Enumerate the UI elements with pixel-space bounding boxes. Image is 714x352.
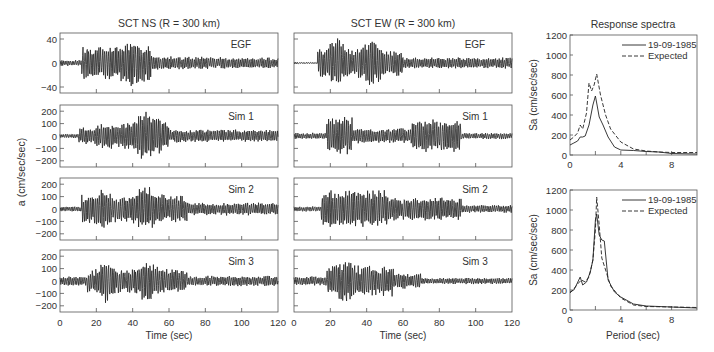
x-tick-label: 4 [618, 159, 623, 170]
waveform-trace [294, 117, 512, 154]
x-tick-label: 8 [669, 159, 674, 170]
panel-label: Sim 3 [228, 256, 254, 267]
x-tick-label: 4 [618, 314, 623, 325]
x-axis-label: Time (sec) [146, 330, 193, 341]
y-tick-label: 0 [562, 305, 567, 316]
y-tick-label: 1200 [546, 185, 567, 196]
y-tick-label: 200 [41, 106, 57, 117]
y-tick-label: 100 [41, 263, 57, 274]
x-tick-label: 100 [234, 317, 250, 328]
x-tick-label: 0 [567, 314, 572, 325]
y-tick-label: 200 [41, 179, 57, 190]
x-tick-label: 120 [270, 317, 286, 328]
legend-dashed-label: Expected [648, 50, 688, 61]
x-tick-label: 0 [567, 159, 572, 170]
y-tick-label: −200 [36, 155, 57, 166]
y-tick-label: −40 [41, 82, 57, 93]
y-tick-label: 800 [551, 70, 567, 81]
y-tick-label: −100 [36, 143, 57, 154]
panel-label: EGF [231, 39, 252, 50]
y-tick-label: 200 [551, 130, 567, 141]
x-tick-label: 60 [398, 317, 409, 328]
panel-label: Sim 2 [462, 184, 488, 195]
y-tick-label: 800 [551, 225, 567, 236]
y-tick-label: 0 [52, 276, 57, 287]
x-tick-label: 8 [669, 314, 674, 325]
ew-title: SCT EW (R = 300 km) [351, 17, 456, 29]
y-tick-label: 100 [41, 191, 57, 202]
y-tick-label: 0 [52, 204, 57, 215]
waveform-trace [60, 44, 278, 86]
spectrum-dashed [570, 74, 697, 153]
spectrum-solid [570, 214, 697, 308]
y-tick-label: −200 [36, 228, 57, 239]
legend-dashed-label: Expected [648, 205, 688, 216]
x-tick-label: 20 [91, 317, 102, 328]
y-tick-label: 600 [551, 90, 567, 101]
x-tick-label: 40 [127, 317, 138, 328]
x-tick-label: 60 [164, 317, 175, 328]
y-tick-label: 0 [52, 131, 57, 142]
x-tick-label: 0 [57, 317, 62, 328]
legend-solid-label: 19-09-1985 [648, 194, 697, 205]
y-tick-label: 1200 [546, 30, 567, 41]
y-axis-label: Sa (cm/sec/sec) [528, 59, 539, 131]
legend-solid-label: 19-09-1985 [648, 39, 697, 50]
panel-label: Sim 3 [462, 256, 488, 267]
y-tick-label: 400 [551, 265, 567, 276]
x-tick-label: 120 [504, 317, 520, 328]
x-tick-label: 100 [468, 317, 484, 328]
ns-title: SCT NS (R = 300 km) [118, 17, 220, 29]
panel-label: Sim 2 [228, 184, 254, 195]
y-tick-label: −100 [36, 288, 57, 299]
y-tick-label: 200 [551, 285, 567, 296]
waveform-trace [294, 190, 512, 227]
waveform-trace [294, 262, 512, 301]
panel-label: Sim 1 [228, 111, 254, 122]
panel-label: Sim 1 [462, 111, 488, 122]
figure: SCT NS (R = 300 km)SCT EW (R = 300 km)a … [0, 0, 714, 352]
waveform-trace [60, 263, 278, 303]
y-axis-label: a (cm/sec/sec) [15, 138, 27, 206]
x-tick-label: 80 [434, 317, 445, 328]
y-tick-label: 1000 [546, 50, 567, 61]
x-axis-label: Time (sec) [380, 330, 427, 341]
rs-title: Response spectra [591, 18, 676, 30]
panel-label: EGF [465, 39, 486, 50]
x-tick-label: 40 [361, 317, 372, 328]
y-tick-label: 0 [52, 58, 57, 69]
y-tick-label: 1000 [546, 205, 567, 216]
y-tick-label: 200 [41, 251, 57, 262]
x-axis-label-period: Period (sec) [606, 330, 660, 341]
spectrum-solid [570, 96, 697, 154]
y-tick-label: 100 [41, 118, 57, 129]
y-tick-label: −200 [36, 300, 57, 311]
x-tick-label: 0 [291, 317, 296, 328]
y-tick-label: −100 [36, 216, 57, 227]
x-tick-label: 80 [200, 317, 211, 328]
x-tick-label: 20 [325, 317, 336, 328]
y-tick-label: 600 [551, 245, 567, 256]
y-axis-label: Sa (cm/sec/sec) [528, 214, 539, 286]
y-tick-label: 0 [562, 150, 567, 161]
y-tick-label: 40 [46, 34, 57, 45]
y-tick-label: 400 [551, 110, 567, 121]
